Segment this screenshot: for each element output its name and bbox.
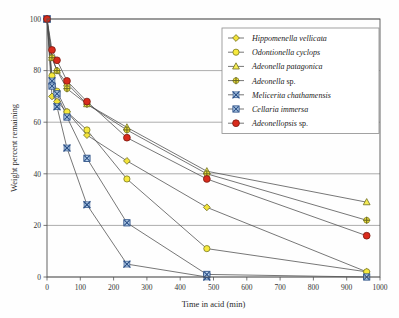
data-point-marker xyxy=(124,134,131,141)
series-line-4 xyxy=(47,19,207,277)
legend-label-genus: Melicerita chathamensis xyxy=(251,91,331,100)
data-point-marker xyxy=(124,158,131,165)
xtick-label-200: 200 xyxy=(108,283,120,292)
data-point-marker xyxy=(54,57,61,64)
legend-label-genus: Odontionella cyclops xyxy=(252,48,320,57)
x-axis-label: Time in acid (min) xyxy=(182,299,246,309)
data-point-marker xyxy=(233,49,239,55)
legend-label-suffix: sp. xyxy=(297,119,308,128)
chart-figure: 0100200300400500600700800900100002040608… xyxy=(0,0,399,318)
xtick-label-400: 400 xyxy=(175,283,187,292)
legend-label-4: Melicerita chathamensis xyxy=(251,91,331,100)
legend-label-0: Hippomenella vellicata xyxy=(251,34,327,43)
legend-label-genus: Cellaria immersa xyxy=(252,105,308,114)
legend-label-1: Odontionella cyclops xyxy=(252,48,320,57)
legend-label-genus: Adeonella patagonica xyxy=(251,62,322,71)
xtick-label-500: 500 xyxy=(208,283,220,292)
ytick-label-40: 40 xyxy=(34,170,42,179)
ytick-label-0: 0 xyxy=(37,273,41,282)
legend-label-3: Adeonella sp. xyxy=(251,77,296,86)
xtick-label-900: 900 xyxy=(341,283,353,292)
legend-label-6: Adeonellopsis sp. xyxy=(251,119,308,128)
data-point-marker xyxy=(203,176,210,183)
ytick-label-20: 20 xyxy=(34,221,42,230)
legend-label-genus: Adeonella xyxy=(251,77,284,86)
ytick-label-100: 100 xyxy=(30,15,42,24)
data-point-marker xyxy=(363,232,370,239)
legend-label-genus: Hippomenella vellicata xyxy=(251,34,327,43)
xtick-label-0: 0 xyxy=(45,283,49,292)
ytick-label-60: 60 xyxy=(34,118,42,127)
data-point-marker xyxy=(84,98,91,105)
legend-label-2: Adeonella patagonica xyxy=(251,62,322,71)
data-point-marker xyxy=(49,47,56,54)
data-point-marker xyxy=(204,246,210,252)
ytick-label-80: 80 xyxy=(34,66,42,75)
xtick-label-600: 600 xyxy=(241,283,253,292)
y-axis-label: Weight percent remaining xyxy=(9,103,19,192)
xtick-label-100: 100 xyxy=(75,283,87,292)
xtick-label-700: 700 xyxy=(274,283,286,292)
xtick-label-300: 300 xyxy=(141,283,153,292)
acid-dissolution-line-chart: 0100200300400500600700800900100002040608… xyxy=(0,0,399,318)
legend-label-5: Cellaria immersa xyxy=(252,105,308,114)
legend: Hippomenella vellicataOdontionella cyclo… xyxy=(222,28,379,133)
legend-box xyxy=(222,28,379,133)
series-markers-4 xyxy=(44,16,211,281)
data-point-marker xyxy=(64,78,71,85)
legend-label-suffix: sp. xyxy=(284,77,295,86)
xtick-label-800: 800 xyxy=(308,283,320,292)
xtick-label-1000: 1000 xyxy=(373,283,388,292)
data-point-marker xyxy=(124,176,130,182)
data-point-marker xyxy=(233,120,240,127)
data-point-marker xyxy=(84,127,90,133)
data-point-marker xyxy=(203,204,210,211)
legend-label-genus: Adeonellopsis xyxy=(251,119,297,128)
